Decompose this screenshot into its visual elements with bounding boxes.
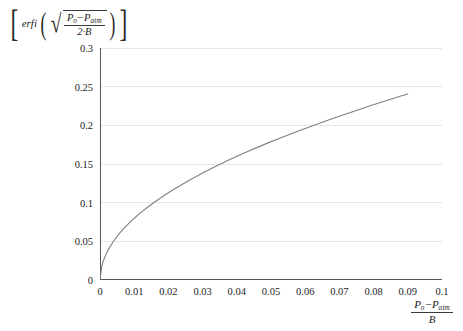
y-tick-label: 0 bbox=[0, 275, 93, 286]
y-tick-label: 0.1 bbox=[0, 197, 93, 208]
x-numerator-sub-2: atm bbox=[439, 304, 450, 312]
x-numerator: Po−Patm bbox=[411, 298, 453, 312]
data-series bbox=[100, 94, 408, 280]
x-tick-label: 0.1 bbox=[435, 286, 448, 297]
gridlines bbox=[100, 48, 442, 241]
open-paren: ( bbox=[40, 10, 46, 37]
x-tick-label: 0.07 bbox=[330, 286, 348, 297]
y-axis-label: [ erfi ( √ Po−Patm 2·B ) ] bbox=[8, 8, 130, 39]
x-tick-label: 0.01 bbox=[125, 286, 143, 297]
y-tick-label: 0.05 bbox=[0, 236, 93, 247]
close-bracket: ] bbox=[120, 8, 128, 39]
x-tick-label: 0 bbox=[97, 286, 102, 297]
x-numerator-var-2: P bbox=[432, 298, 439, 310]
series-line bbox=[100, 94, 408, 280]
x-fraction: Po−Patm B bbox=[411, 298, 453, 325]
x-tick-label: 0.04 bbox=[228, 286, 246, 297]
y-tick-label: 0.3 bbox=[0, 43, 93, 54]
erfi-function-name: erfi bbox=[21, 18, 38, 29]
y-tick-label: 0.2 bbox=[0, 120, 93, 131]
x-tick-label: 0.05 bbox=[262, 286, 280, 297]
x-tick-label: 0.06 bbox=[296, 286, 314, 297]
open-bracket: [ bbox=[10, 8, 18, 39]
x-tick-label: 0.02 bbox=[159, 286, 177, 297]
numerator-minus: − bbox=[77, 12, 84, 23]
radical-group: √ Po−Patm 2·B bbox=[49, 10, 107, 37]
chart-figure: [ erfi ( √ Po−Patm 2·B ) ] Po−Patm B bbox=[0, 0, 463, 331]
fraction-numerator: Po−Patm bbox=[64, 12, 105, 25]
numerator-sub-2: atm bbox=[90, 16, 101, 24]
x-tick-label: 0.09 bbox=[399, 286, 417, 297]
x-numerator-minus: − bbox=[425, 298, 432, 310]
x-axis-label: Po−Patm B bbox=[411, 298, 453, 325]
sqrt-icon: √ bbox=[50, 11, 61, 38]
fraction: Po−Patm 2·B bbox=[64, 12, 105, 37]
y-tick-label: 0.15 bbox=[0, 159, 93, 170]
x-tick-label: 0.08 bbox=[364, 286, 382, 297]
radicand: Po−Patm 2·B bbox=[63, 10, 107, 37]
close-paren: ) bbox=[109, 10, 115, 37]
x-tick-label: 0.03 bbox=[193, 286, 211, 297]
y-tick-label: 0.25 bbox=[0, 81, 93, 92]
plot-svg bbox=[100, 48, 442, 280]
fraction-denominator: 2·B bbox=[64, 25, 105, 38]
x-denominator: B bbox=[411, 312, 453, 325]
plot-area bbox=[100, 48, 442, 280]
x-numerator-var-1: P bbox=[414, 298, 421, 310]
